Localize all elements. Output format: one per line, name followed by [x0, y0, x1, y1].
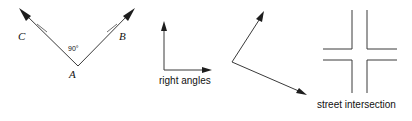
arrowhead-up-icon [161, 21, 167, 31]
arrowhead-open-upper-icon [256, 11, 264, 22]
geometry-figures-sheet: C B A 90° right angles street intersecti… [0, 0, 412, 121]
arrowhead-right-icon [202, 67, 212, 73]
caption-right-angles: right angles [159, 76, 211, 86]
ray-ac [24, 13, 78, 66]
figure-angle-a [19, 8, 135, 66]
ray-label-c: C [18, 31, 25, 42]
vertex-label-a: A [69, 69, 76, 80]
arrowhead-open-lower-icon [296, 88, 307, 95]
ray-open-upper [232, 17, 261, 62]
arrowhead-ab-icon [123, 8, 135, 21]
ray-open-lower [232, 62, 301, 92]
figure-right-angles [161, 21, 212, 73]
figure-street-intersection [323, 10, 397, 93]
figure-open-angle [232, 11, 307, 95]
angle-measure-label: 90° [68, 45, 79, 52]
caption-street-intersection: street intersection [317, 100, 396, 110]
arrowhead-ac-icon [19, 8, 31, 21]
ray-label-b: B [119, 31, 126, 42]
